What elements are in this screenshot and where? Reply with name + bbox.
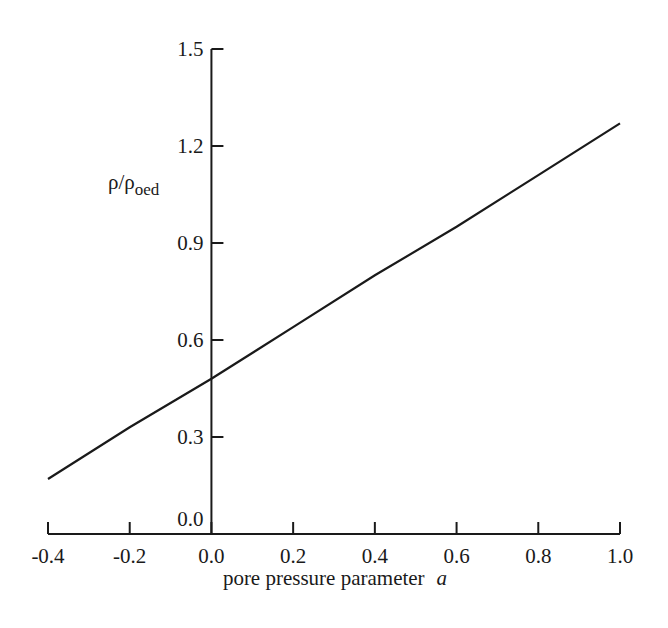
x-axis-title: pore pressure parametera (223, 566, 447, 590)
chart: -0.4-0.20.00.20.40.60.81.0 0.00.30.60.91… (0, 0, 668, 628)
x-tick-label: 0.6 (443, 544, 469, 568)
x-tick-label: 0.0 (198, 544, 224, 568)
axes (48, 49, 620, 534)
y-tick-label: 1.5 (177, 37, 203, 61)
y-axis-title: ρ/ρoed (108, 170, 160, 199)
x-axis-ticks: -0.4-0.20.00.20.40.60.81.0 (31, 522, 633, 568)
x-tick-label: 0.2 (280, 544, 306, 568)
y-tick-label: 0.9 (177, 231, 203, 255)
y-tick-label: 0.3 (177, 425, 203, 449)
x-tick-label: -0.4 (31, 544, 65, 568)
x-tick-label: 0.8 (525, 544, 551, 568)
x-tick-label: 0.4 (362, 544, 389, 568)
y-tick-label: 1.2 (177, 134, 203, 158)
y-axis-ticks: 0.00.30.60.91.21.5 (177, 37, 223, 531)
y-tick-label: 0.6 (177, 328, 203, 352)
y-tick-label: 0.0 (177, 507, 203, 531)
x-tick-label: -0.2 (113, 544, 146, 568)
x-tick-label: 1.0 (607, 544, 633, 568)
